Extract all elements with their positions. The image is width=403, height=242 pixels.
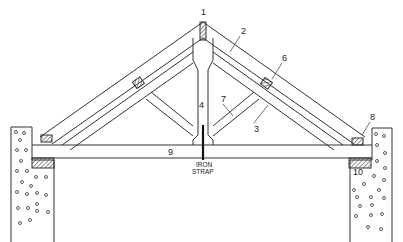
label-1: 1 [201,7,206,17]
part-labels: 1 2 3 4 6 7 8 9 10 IRON STRAP [168,7,375,177]
label-6: 6 [282,53,287,63]
label-10: 10 [353,167,363,177]
label-4: 4 [199,100,204,110]
iron-strap-label-1: IRON [196,161,213,168]
ridge-block [200,22,206,40]
roof-truss-diagram: 1 2 3 4 6 7 8 9 10 IRON STRAP [0,0,403,242]
label-7: 7 [221,94,226,104]
label-2: 2 [241,26,246,36]
label-9: 9 [168,147,173,157]
label-3: 3 [254,124,259,134]
left-eaves-block [41,135,52,142]
left-wall [11,127,54,242]
label-8: 8 [370,112,375,122]
iron-strap-label-2: STRAP [192,168,214,175]
left-wall-plate [32,158,54,168]
right-eaves-block [352,138,363,145]
